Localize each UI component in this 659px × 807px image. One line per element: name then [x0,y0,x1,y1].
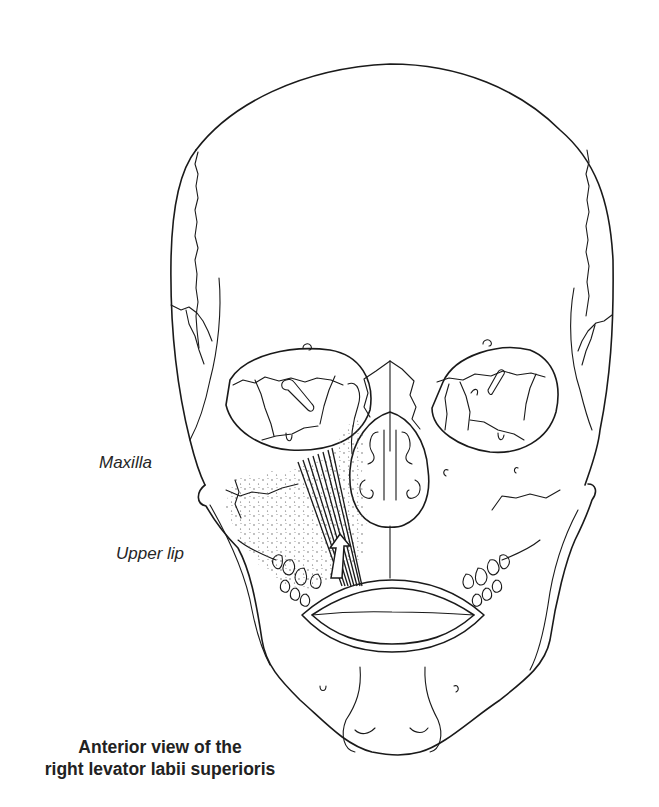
maxilla-region [225,383,367,589]
upper-lip-label: Upper lip [116,544,184,564]
lips [302,580,484,652]
skull-illustration [0,0,659,807]
caption-line-2: right levator labii superioris [0,758,320,780]
cranium-outline [171,64,613,485]
caption-line-1: Anterior view of the [0,736,320,758]
maxilla-label: Maxilla [99,453,152,473]
figure-caption: Anterior view of the right levator labii… [0,736,320,780]
right-orbit [432,340,558,453]
